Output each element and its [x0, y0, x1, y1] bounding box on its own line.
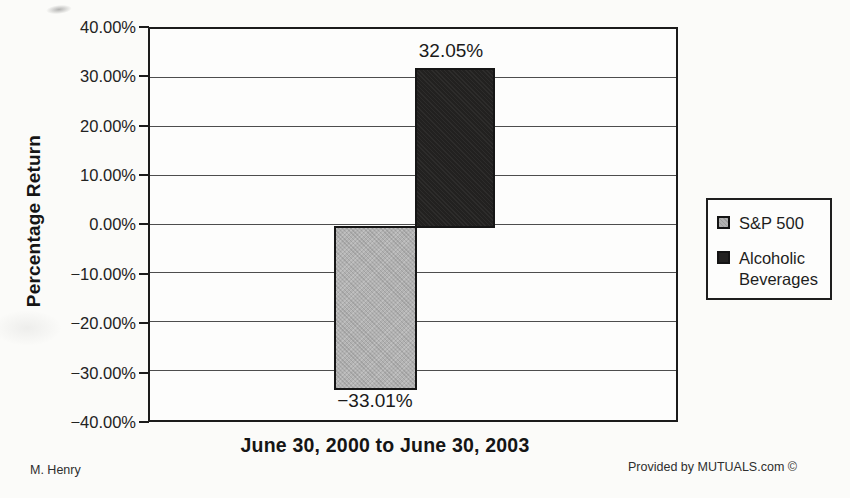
legend-item-sp500: S&P 500 — [717, 213, 824, 234]
plot-area — [148, 27, 678, 422]
y-tick-label: −20.00% — [0, 313, 136, 333]
bar-value-label-sp500: −33.01% — [331, 390, 419, 412]
y-tick-label: −40.00% — [0, 412, 136, 432]
y-tick-label: 10.00% — [0, 165, 136, 185]
y-tick-label: 40.00% — [0, 17, 136, 37]
y-tick-label: 20.00% — [0, 116, 136, 136]
bar-value-label-alcoholic: 32.05% — [408, 40, 494, 62]
footer-author: M. Henry — [30, 463, 81, 477]
y-tick-label: −10.00% — [0, 264, 136, 284]
bar-alcoholic-beverages — [415, 68, 495, 228]
footer-provider: Provided by MUTUALS.com © — [628, 460, 797, 474]
legend-label-alcoholic: Alcoholic Beverages — [739, 248, 824, 290]
gridline-zero — [150, 224, 676, 225]
scan-smudge — [46, 4, 73, 16]
gridline — [150, 175, 676, 176]
y-tick-label: 30.00% — [0, 66, 136, 86]
legend-label-sp500: S&P 500 — [739, 213, 804, 234]
gridline — [150, 126, 676, 127]
legend-item-alcoholic: Alcoholic Beverages — [717, 248, 824, 290]
legend-swatch-sp500 — [717, 216, 730, 229]
gridline — [150, 77, 676, 78]
bar-sp500 — [334, 226, 417, 390]
legend: S&P 500 Alcoholic Beverages — [706, 198, 832, 300]
y-tick-label: −30.00% — [0, 363, 136, 383]
x-axis-title: June 30, 2000 to June 30, 2003 — [155, 434, 615, 457]
bar-chart: Percentage Return 40.00% 30.00% 20.00% 1… — [0, 0, 850, 498]
y-tick-label: 0.00% — [0, 214, 136, 234]
legend-swatch-alcoholic — [717, 251, 730, 264]
